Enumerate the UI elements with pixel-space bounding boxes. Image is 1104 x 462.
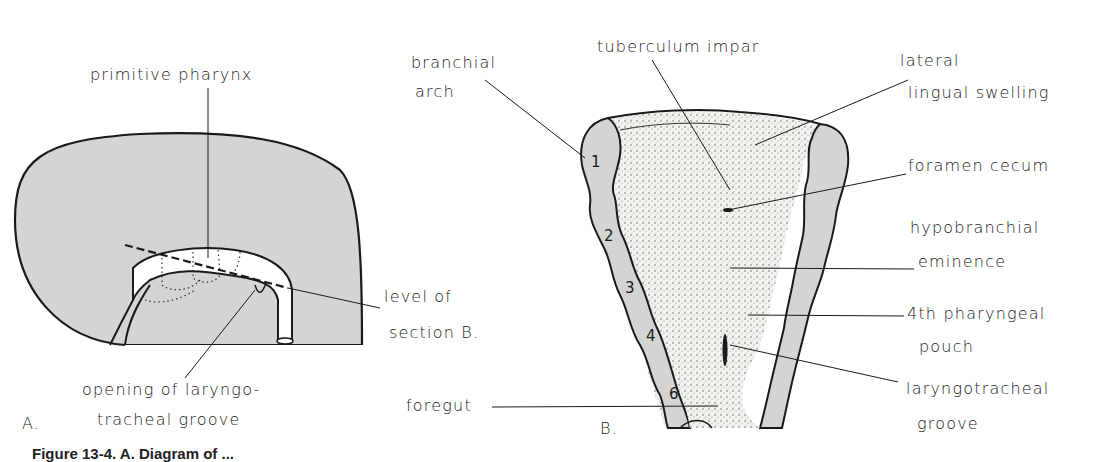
- label-laryngotracheal-line1: laryngotracheal: [906, 378, 1050, 399]
- label-primitive-pharynx: primitive pharynx: [90, 64, 253, 85]
- panel-b-pharynx-floor: [485, 60, 914, 428]
- label-pouch-line2: pouch: [919, 336, 974, 357]
- label-foramen-cecum: foramen cecum: [908, 155, 1049, 176]
- label-level-of-section-line1: level of: [384, 286, 452, 307]
- figure-caption: Figure 13-4. A. Diagram of ...: [32, 445, 234, 462]
- panel-b-label: B.: [600, 418, 618, 439]
- label-opening-line2: tracheal groove: [97, 409, 241, 430]
- laryngotracheal-groove-mark: [723, 334, 728, 366]
- label-pouch-line1: 4th pharyngeal: [907, 303, 1045, 324]
- label-tuberculum-impar: tuberculum impar: [597, 36, 760, 57]
- label-level-of-section-line2: section B.: [389, 322, 479, 343]
- label-lateral-line2: lingual swelling: [908, 82, 1050, 103]
- label-lateral-line1: lateral: [900, 50, 960, 71]
- label-branchial-arch-line2: arch: [415, 81, 455, 102]
- label-hypobranchial-line2: eminence: [918, 251, 1006, 272]
- embryo-body: [15, 133, 362, 345]
- label-laryngotracheal-line2: groove: [917, 413, 979, 434]
- arch-number-6: 6: [669, 385, 679, 403]
- arch-number-1: 1: [591, 153, 601, 171]
- arch-number-4: 4: [646, 327, 656, 345]
- label-branchial-arch-line1: branchial: [411, 52, 496, 73]
- panel-a-embryo: [15, 88, 380, 378]
- label-hypobranchial-line1: hypobranchial: [910, 217, 1039, 238]
- arch-number-2: 2: [604, 227, 614, 245]
- label-opening-line1: opening of laryngo-: [82, 379, 260, 400]
- arch-number-3: 3: [625, 279, 635, 297]
- panel-a-label: A.: [22, 413, 40, 434]
- label-foregut: foregut: [406, 395, 472, 416]
